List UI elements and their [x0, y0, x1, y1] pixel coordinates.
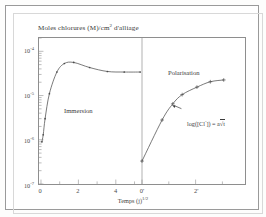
annotation-polarisation: Polarisation	[168, 69, 200, 76]
x-tick-label: 4	[114, 187, 117, 194]
annotation-immersion: Immersion	[64, 107, 93, 114]
figure-root: Moles chlorures (M)/cm2 d'alliage 10-410…	[0, 0, 266, 217]
chart-title-tail: d'alliage	[112, 24, 139, 32]
x-tick-label: 0'	[140, 187, 144, 194]
formula-tail: ]) = a	[206, 120, 219, 127]
x-axis-title-text: Temps (j)	[118, 197, 142, 204]
x-axis-title: Temps (j)1/2	[118, 196, 148, 204]
x-tick-label: 2	[76, 187, 79, 194]
x-axis-title-exponent: 1/2	[142, 196, 148, 201]
formula-radical: √t	[220, 119, 225, 127]
y-tick-label: 10-6	[8, 136, 34, 144]
chart-title: Moles chlorures (M)/cm2 d'alliage	[38, 23, 139, 32]
y-tick-exponent: -5	[30, 91, 34, 96]
y-tick-label: 10-5	[8, 91, 34, 99]
chart-title-text: Moles chlorures (M)/cm	[38, 24, 110, 32]
annotation-formula: log([Cl-]) = a√t	[187, 119, 225, 127]
formula-head: log([Cl	[187, 120, 205, 127]
y-tick-label: 10-4	[8, 46, 34, 54]
x-tick-label: 2'	[194, 187, 198, 194]
y-tick-exponent: -4	[30, 46, 34, 51]
y-tick-exponent: -7	[30, 181, 34, 186]
y-tick-label: 10-7	[8, 181, 34, 189]
y-tick-exponent: -6	[30, 136, 34, 141]
x-tick-label: 0	[38, 187, 41, 194]
